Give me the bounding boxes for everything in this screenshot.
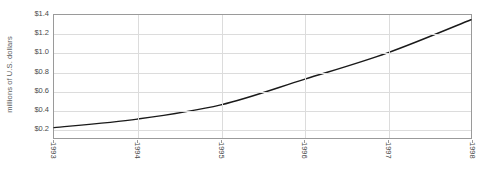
gridline-horizontal bbox=[54, 73, 471, 74]
line-chart: millions of U.S. dollars $0.2$0.4$0.6$0.… bbox=[0, 0, 483, 179]
x-axis-tick-label: 1994 bbox=[132, 140, 142, 176]
x-axis-tick-label-text: 1998 bbox=[468, 142, 477, 159]
plot-area bbox=[53, 14, 472, 139]
y-axis-tick-label: $1.4 bbox=[21, 10, 49, 18]
x-axis-tick-label: 1995 bbox=[216, 140, 226, 176]
y-axis-tick-label: $1.0 bbox=[21, 48, 49, 56]
gridline-vertical bbox=[305, 15, 306, 138]
gridline-vertical bbox=[222, 15, 223, 138]
x-axis-tick-label-text: 1994 bbox=[132, 142, 141, 159]
y-axis-title: millions of U.S. dollars bbox=[0, 0, 18, 148]
gridline-horizontal bbox=[54, 111, 471, 112]
y-axis-tick-label: $0.8 bbox=[21, 68, 49, 76]
x-axis-tick-labels: 199319941995199619971998 bbox=[53, 140, 472, 179]
y-axis-tick-label: $0.2 bbox=[21, 125, 49, 133]
x-axis-tick-label-text: 1997 bbox=[384, 142, 393, 159]
x-axis-tick-label-text: 1995 bbox=[216, 142, 225, 159]
gridline-horizontal bbox=[54, 34, 471, 35]
x-axis-tick-label-text: 1993 bbox=[49, 142, 58, 159]
y-axis-tick-labels: $0.2$0.4$0.6$0.8$1.0$1.2$1.4 bbox=[19, 0, 49, 179]
x-axis-tick-label: 1998 bbox=[467, 140, 477, 176]
gridline-vertical bbox=[138, 15, 139, 138]
y-axis-tick-label: $0.4 bbox=[21, 106, 49, 114]
x-axis-tick-label-text: 1996 bbox=[300, 142, 309, 159]
y-axis-title-text: millions of U.S. dollars bbox=[5, 36, 14, 113]
gridline-horizontal bbox=[54, 92, 471, 93]
gridline-horizontal bbox=[54, 130, 471, 131]
gridline-horizontal bbox=[54, 53, 471, 54]
x-axis-tick-label: 1993 bbox=[48, 140, 58, 176]
y-axis-tick-label: $0.6 bbox=[21, 87, 49, 95]
gridline-vertical bbox=[389, 15, 390, 138]
x-axis-tick-label: 1996 bbox=[299, 140, 309, 176]
y-axis-tick-label: $1.2 bbox=[21, 29, 49, 37]
x-axis-tick-label: 1997 bbox=[383, 140, 393, 176]
